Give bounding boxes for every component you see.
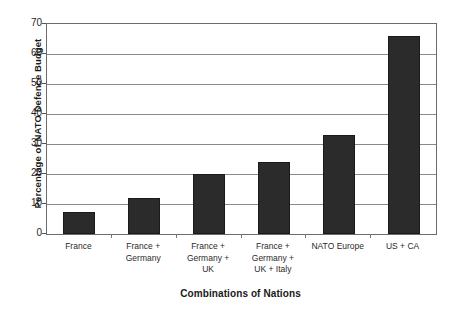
bar-chart: Percentage of NATO Defence Budget 010203… bbox=[0, 0, 460, 310]
x-axis-tick-mark bbox=[370, 234, 371, 238]
bar bbox=[63, 212, 95, 235]
bar bbox=[258, 162, 290, 234]
x-axis-tick-label: France +Germany +UK bbox=[176, 241, 241, 276]
x-axis-tick-label-line: NATO Europe bbox=[305, 241, 370, 253]
y-axis-tick-label: 10 bbox=[14, 198, 42, 208]
bar bbox=[193, 174, 225, 234]
x-axis-tick-label-line: Germany + bbox=[176, 253, 241, 265]
plot-area bbox=[46, 23, 437, 235]
x-axis-tick-label: France +Germany +UK + Italy bbox=[241, 241, 306, 276]
x-axis-tick-mark bbox=[176, 234, 177, 238]
x-axis-tick-label-line: France + bbox=[111, 241, 176, 253]
bar bbox=[323, 135, 355, 234]
x-axis-tick-label: France +Germany bbox=[111, 241, 176, 264]
x-axis-tick-mark bbox=[305, 234, 306, 238]
bar-series bbox=[47, 24, 436, 234]
x-axis-tick-label: NATO Europe bbox=[305, 241, 370, 253]
x-axis-tick-label-line: US + CA bbox=[370, 241, 435, 253]
bar bbox=[388, 36, 420, 234]
y-axis-tick-mark bbox=[42, 203, 46, 204]
y-axis-tick-mark bbox=[42, 113, 46, 114]
y-axis-tick-mark bbox=[42, 83, 46, 84]
y-axis-tick-label: 50 bbox=[14, 78, 42, 88]
x-axis-tick-label-line: UK + Italy bbox=[241, 264, 306, 276]
x-axis-tick-label: US + CA bbox=[370, 241, 435, 253]
x-axis-tick-mark bbox=[241, 234, 242, 238]
x-axis-tick-label-line: France + bbox=[176, 241, 241, 253]
x-axis-tick-label-line: France bbox=[46, 241, 111, 253]
y-axis-tick-label: 20 bbox=[14, 168, 42, 178]
y-axis-tick-label: 0 bbox=[14, 228, 42, 238]
x-axis-tick-label-line: Germany + bbox=[241, 253, 306, 265]
y-axis-tick-mark bbox=[42, 233, 46, 234]
x-axis-tick-label-line: UK bbox=[176, 264, 241, 276]
y-axis-tick-mark bbox=[42, 173, 46, 174]
y-axis-tick-mark bbox=[42, 143, 46, 144]
x-axis-title: Combinations of Nations bbox=[46, 288, 435, 299]
y-axis-tick-label: 70 bbox=[14, 18, 42, 28]
y-axis-tick-label: 40 bbox=[14, 108, 42, 118]
y-axis-tick-label: 60 bbox=[14, 48, 42, 58]
x-axis-tick-label-line: France + bbox=[241, 241, 306, 253]
x-axis-tick-labels: FranceFrance +GermanyFrance +Germany +UK… bbox=[46, 241, 435, 286]
bar bbox=[128, 198, 160, 234]
x-axis-tick-label-line: Germany bbox=[111, 253, 176, 265]
y-axis-tick-label: 30 bbox=[14, 138, 42, 148]
y-axis-tick-mark bbox=[42, 53, 46, 54]
x-axis-tick-label: France bbox=[46, 241, 111, 253]
y-axis-tick-mark bbox=[42, 23, 46, 24]
x-axis-tick-mark bbox=[111, 234, 112, 238]
y-axis-tick-labels: 010203040506070 bbox=[14, 15, 42, 241]
